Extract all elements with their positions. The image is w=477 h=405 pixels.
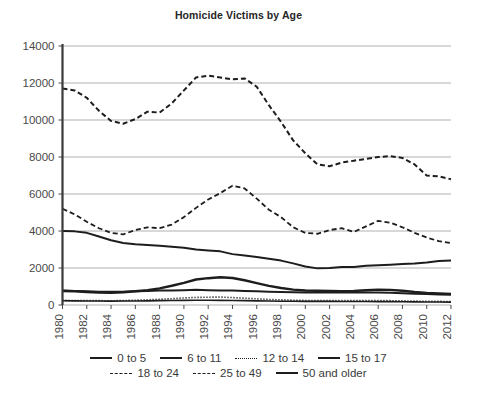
y-tick-label: 10000 bbox=[23, 114, 55, 126]
y-tick-label: 12000 bbox=[23, 77, 55, 89]
legend-item-12-to-14[interactable]: 12 to 14 bbox=[235, 352, 304, 364]
x-tick-label: 2008 bbox=[392, 314, 404, 340]
x-tick-label: 1992 bbox=[198, 314, 210, 340]
legend-label: 50 and older bbox=[303, 367, 367, 379]
x-tick-label: 2010 bbox=[417, 314, 429, 340]
y-tick-label: 2000 bbox=[29, 262, 55, 274]
x-tick-label: 2002 bbox=[320, 314, 332, 340]
legend-item-18-to-24[interactable]: 18 to 24 bbox=[110, 367, 179, 379]
x-tick-label: 2006 bbox=[368, 314, 380, 340]
x-tick-label: 1982 bbox=[77, 314, 89, 340]
x-axis-tick-labels: 1980198219841986198819901992199419961998… bbox=[53, 313, 454, 339]
legend-item-50-and-older[interactable]: 50 and older bbox=[276, 367, 367, 379]
legend-row-2: 18 to 2425 to 4950 and older bbox=[0, 367, 477, 379]
chart-legend: 0 to 56 to 1112 to 1415 to 17 18 to 2425… bbox=[0, 352, 477, 382]
x-tick-label: 1996 bbox=[247, 314, 259, 340]
gridlines-group bbox=[63, 46, 452, 305]
x-tick-label: 1988 bbox=[150, 314, 162, 340]
x-tick-label: 2000 bbox=[295, 314, 307, 340]
x-tick-label: 2012 bbox=[441, 314, 453, 340]
legend-swatch-dashed-icon bbox=[110, 373, 132, 374]
x-tick-label: 1984 bbox=[101, 313, 113, 339]
x-tick-label: 1990 bbox=[174, 314, 186, 340]
x-tick-label: 1994 bbox=[222, 313, 234, 339]
y-tick-label: 4000 bbox=[29, 225, 55, 237]
line-chart-plot: 02000400060008000100001200014000 1980198… bbox=[0, 0, 477, 405]
legend-item-15-to-17[interactable]: 15 to 17 bbox=[318, 352, 387, 364]
legend-item-0-to-5[interactable]: 0 to 5 bbox=[90, 352, 146, 364]
legend-item-25-to-49[interactable]: 25 to 49 bbox=[193, 367, 262, 379]
legend-swatch-dotted-icon bbox=[235, 358, 257, 359]
legend-swatch-solid-icon bbox=[318, 357, 340, 359]
legend-label: 15 to 17 bbox=[345, 352, 387, 364]
legend-swatch-solid-icon bbox=[276, 372, 298, 374]
legend-label: 0 to 5 bbox=[117, 352, 146, 364]
legend-swatch-solid-icon bbox=[160, 357, 182, 359]
legend-item-6-to-11[interactable]: 6 to 11 bbox=[160, 352, 221, 364]
legend-label: 25 to 49 bbox=[220, 367, 262, 379]
y-tick-label: 14000 bbox=[23, 40, 55, 52]
y-axis-tick-labels: 02000400060008000100001200014000 bbox=[23, 40, 55, 311]
y-tick-label: 8000 bbox=[29, 151, 55, 163]
legend-label: 12 to 14 bbox=[262, 352, 304, 364]
x-tick-label: 1986 bbox=[125, 314, 137, 340]
chart-container: Homicide Victims by Age 0200040006000800… bbox=[0, 0, 477, 405]
series-line-25-to-49 bbox=[63, 76, 452, 180]
y-tick-label: 6000 bbox=[29, 188, 55, 200]
series-line-50-and-older bbox=[63, 231, 452, 268]
x-axis-ticks bbox=[63, 305, 452, 309]
x-tick-label: 2004 bbox=[344, 313, 356, 339]
x-tick-label: 1980 bbox=[53, 314, 65, 340]
legend-swatch-dashed-icon bbox=[193, 373, 215, 374]
x-tick-label: 1998 bbox=[271, 314, 283, 340]
legend-row-1: 0 to 56 to 1112 to 1415 to 17 bbox=[0, 352, 477, 364]
legend-label: 18 to 24 bbox=[137, 367, 179, 379]
legend-swatch-solid-icon bbox=[90, 357, 112, 359]
legend-label: 6 to 11 bbox=[187, 352, 221, 364]
y-tick-label: 0 bbox=[48, 299, 54, 311]
